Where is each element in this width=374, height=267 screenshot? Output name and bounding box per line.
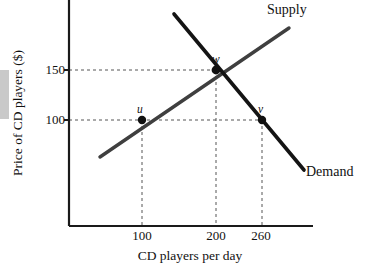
x-axis-title: CD players per day (110, 249, 270, 263)
supply-curve (100, 28, 289, 157)
guide-lines (69, 70, 262, 226)
y-axis-title: Price of CD players ($) (10, 50, 26, 176)
plot-canvas (0, 0, 374, 267)
y-axis-title-wrapper: Price of CD players ($) (0, 0, 36, 225)
point-v-label: v (258, 104, 263, 116)
point-w-marker (212, 66, 221, 75)
supply-curve-label: Supply (267, 3, 307, 17)
point-u-marker (138, 116, 146, 124)
x-tick-label-100: 100 (122, 229, 162, 242)
point-w-label: w (212, 54, 220, 66)
point-u-label: u (137, 104, 143, 116)
y-tick-label-150: 150 (36, 63, 65, 76)
supply-demand-figure: Price of CD players ($) 150 100 100 200 … (0, 0, 374, 267)
point-v-marker (258, 116, 266, 124)
x-tick-label-260: 260 (241, 229, 281, 242)
demand-curve-label: Demand (306, 165, 353, 179)
y-tick-label-100: 100 (36, 113, 65, 126)
x-tick-label-200: 200 (196, 229, 236, 242)
